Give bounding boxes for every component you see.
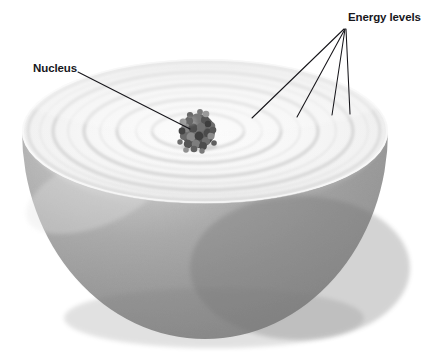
hemisphere-bottom-shadow	[64, 288, 364, 348]
atom-diagram-svg: Nucleus Energy levels	[0, 0, 428, 352]
energy-levels-label: Energy levels	[348, 11, 421, 23]
nucleus-highlight	[183, 116, 197, 126]
nucleus-label: Nucleus	[33, 62, 77, 74]
atom-diagram-figure: Nucleus Energy levels	[0, 0, 428, 352]
